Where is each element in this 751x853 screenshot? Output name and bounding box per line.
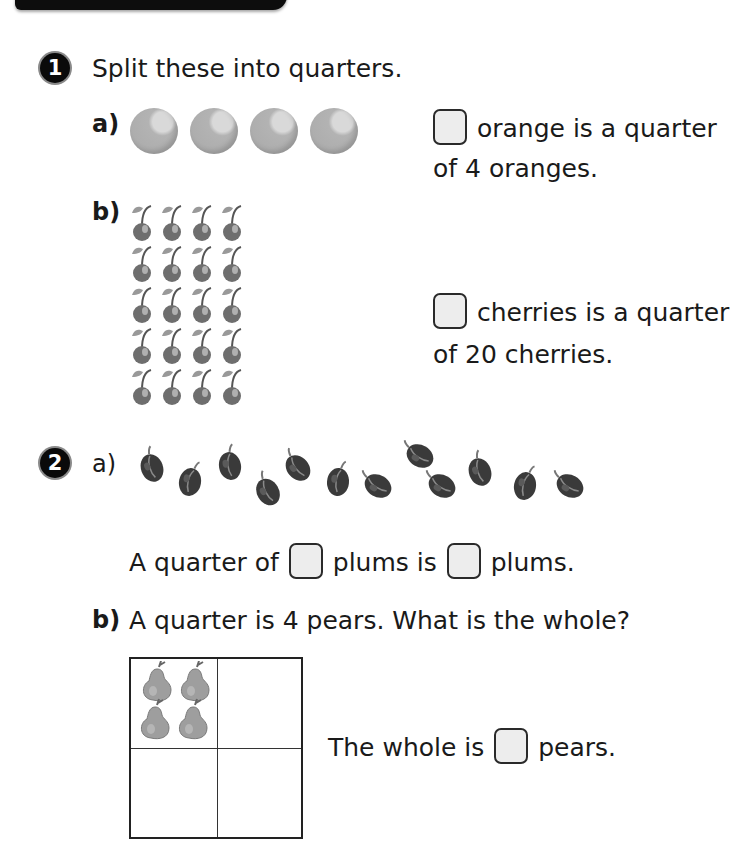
plum-icon bbox=[354, 466, 395, 503]
cherry-icon bbox=[192, 247, 211, 282]
answer-box-quarter[interactable] bbox=[447, 543, 481, 579]
question-number-badge: 2 bbox=[40, 448, 70, 478]
cherry-icon bbox=[192, 206, 211, 241]
plum-icon bbox=[326, 460, 351, 497]
part-prompt: A quarter is 4 pears. What is the whole? bbox=[129, 608, 630, 633]
quarters-grid bbox=[129, 657, 303, 839]
plum-icon bbox=[248, 468, 285, 509]
orange-icon bbox=[250, 108, 298, 154]
cherry-icon bbox=[132, 329, 151, 364]
cherry-icon bbox=[192, 288, 211, 323]
answer-sentence: The whole is pears. bbox=[328, 729, 616, 767]
header-banner bbox=[15, 0, 287, 10]
part-label: b) bbox=[92, 608, 120, 632]
orange-icon bbox=[190, 108, 238, 154]
cherry-icon bbox=[192, 329, 211, 364]
answer-sentence: cherries is a quarter bbox=[433, 294, 729, 332]
plum-icon-row bbox=[130, 440, 600, 520]
plum-icon bbox=[512, 463, 540, 501]
question-prompt: Split these into quarters. bbox=[92, 56, 402, 81]
plum-icon bbox=[177, 459, 205, 497]
cherry-icon bbox=[162, 329, 181, 364]
plum-icon bbox=[418, 466, 459, 503]
orange-icon bbox=[130, 108, 178, 154]
plums-group bbox=[130, 440, 600, 520]
cherry-icon bbox=[222, 329, 241, 364]
part-label: a) bbox=[92, 112, 119, 136]
cherry-icon bbox=[222, 206, 241, 241]
plum-icon bbox=[276, 445, 315, 486]
plum-icon bbox=[134, 445, 167, 485]
part-label: b) bbox=[92, 200, 120, 224]
cherries-group bbox=[128, 196, 248, 408]
cherry-icon bbox=[222, 288, 241, 323]
answer-sentence-line2: of 4 oranges. bbox=[433, 150, 598, 188]
cherry-icon bbox=[132, 247, 151, 282]
cherry-icon bbox=[162, 206, 181, 241]
cherry-icon bbox=[192, 370, 211, 405]
answer-sentence: orange is a quarter bbox=[433, 110, 717, 148]
cherry-icon bbox=[132, 206, 151, 241]
cherry-icon-grid bbox=[128, 196, 248, 408]
answer-box[interactable] bbox=[494, 728, 528, 764]
plum-icon bbox=[546, 466, 587, 503]
orange-icon bbox=[310, 108, 358, 154]
cherry-icon bbox=[162, 288, 181, 323]
part-label: a) bbox=[92, 452, 116, 476]
cherry-icon bbox=[132, 288, 151, 323]
answer-sentence-line2: of 20 cherries. bbox=[433, 336, 613, 374]
plum-icon bbox=[462, 449, 495, 489]
answer-box-whole[interactable] bbox=[289, 543, 323, 579]
answer-box[interactable] bbox=[433, 109, 467, 145]
cherry-icon bbox=[222, 247, 241, 282]
cherry-icon bbox=[162, 370, 181, 405]
cherry-icon bbox=[132, 370, 151, 405]
plum-icon bbox=[216, 443, 244, 481]
question-number-badge: 1 bbox=[40, 53, 70, 83]
plum-icon bbox=[396, 440, 437, 473]
answer-sentence: A quarter of plums is plums. bbox=[129, 544, 575, 582]
answer-box[interactable] bbox=[433, 293, 467, 329]
cherry-icon bbox=[222, 370, 241, 405]
oranges-group bbox=[130, 108, 358, 154]
pears-icon-group bbox=[135, 661, 221, 749]
cherry-icon bbox=[162, 247, 181, 282]
